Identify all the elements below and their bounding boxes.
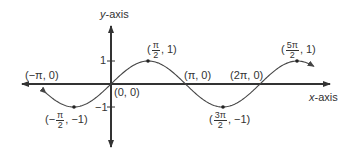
- point-three-half-pi: [221, 105, 225, 109]
- y-axis-label: y-axis: [100, 9, 129, 20]
- label-neg-half-pi: (−π2, −1): [45, 111, 88, 130]
- label-half-pi: (π2, 1): [147, 41, 177, 60]
- label-five-half-pi: (5π2, 1): [281, 41, 316, 60]
- label-pi: (π, 0): [184, 70, 211, 81]
- x-axis-label: x-axis: [309, 92, 338, 103]
- label-three-half-pi: (3π2, −1): [209, 111, 250, 130]
- label-two-pi: (2π, 0): [230, 70, 263, 81]
- label-origin: (0, 0): [114, 87, 140, 98]
- label-neg-pi: (−π, 0): [25, 70, 59, 81]
- tick-label-1: 1: [100, 55, 106, 66]
- tick-label-neg1: −1: [95, 102, 108, 113]
- point-neg-half-pi: [72, 105, 76, 109]
